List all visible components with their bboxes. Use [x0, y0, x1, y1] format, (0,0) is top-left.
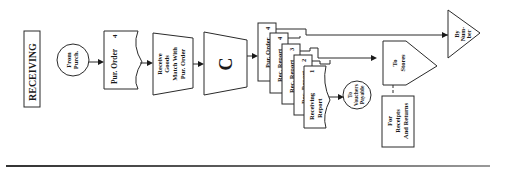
title-text: RECEIVING — [27, 43, 38, 101]
receiving-flowchart: RECEIVING From Purch. Pur. Order 4 Recei… — [0, 0, 505, 170]
svg-text:Receiving: Receiving — [308, 92, 315, 120]
arrow-icon — [147, 60, 153, 66]
svg-text:From: From — [65, 52, 72, 68]
svg-text:Pur. Order: Pur. Order — [110, 48, 119, 84]
from-purch-connector: From Purch. — [57, 44, 89, 76]
to-vouchers-payable-connector: To Vouchers Payable — [343, 81, 371, 109]
svg-text:Stores: Stores — [399, 54, 406, 72]
for-receipts-and-returns-box: For Receipts And Returns — [382, 96, 414, 147]
svg-text:Goods: Goods — [163, 55, 170, 73]
svg-text:Receive: Receive — [156, 53, 163, 74]
svg-text:C: C — [216, 58, 236, 71]
arrow-icon — [252, 53, 258, 59]
to-stores-offpage-connector: To Stores — [383, 41, 437, 85]
title-box: RECEIVING — [24, 31, 40, 107]
arrow-icon — [198, 61, 204, 67]
svg-text:ber: ber — [466, 29, 472, 38]
pur-order-document: Pur. Order 4 — [104, 31, 142, 89]
svg-text:4: 4 — [111, 34, 119, 38]
arrow-icon — [98, 59, 104, 65]
doc-receiving-report-1: Receiving Report 1 — [304, 66, 330, 128]
arrow-icon — [371, 55, 377, 61]
by-number-file: By Num- ber — [448, 10, 480, 58]
manual-operation-c: C — [204, 32, 247, 95]
svg-text:Pur. Order: Pur. Order — [179, 49, 186, 80]
svg-text:Payable: Payable — [359, 85, 365, 104]
svg-text:To: To — [391, 60, 398, 67]
arrow-icon — [442, 32, 448, 38]
svg-text:For: For — [386, 116, 393, 126]
svg-text:Match With: Match With — [171, 47, 178, 81]
document-stack: Pur. Order 4 Rec. Report 4 Rec. Report 3… — [258, 23, 330, 128]
svg-text:Report: Report — [316, 98, 323, 118]
svg-text:1: 1 — [308, 70, 315, 73]
receive-goods-operation: Receive Goods Match With Pur. Order — [153, 33, 193, 95]
svg-text:And Returns: And Returns — [402, 103, 409, 139]
bottom-rule-divider — [6, 165, 490, 167]
svg-text:Receipts: Receipts — [394, 109, 401, 133]
svg-text:Purch.: Purch. — [72, 50, 79, 69]
svg-text:2: 2 — [300, 59, 307, 62]
